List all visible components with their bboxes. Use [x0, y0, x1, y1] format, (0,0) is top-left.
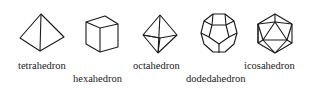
tetrahedron-label: tetrahedron: [18, 61, 66, 72]
dodecahedron-figure: [199, 13, 239, 55]
icosahedron-figure: [256, 13, 294, 55]
hexahedron-label: hexahedron: [73, 74, 122, 85]
hexahedron-figure: [84, 14, 124, 54]
octahedron-figure: [141, 13, 179, 55]
tetrahedron-figure: [18, 12, 68, 54]
icosahedron-label: icosahedron: [244, 61, 295, 72]
octahedron-label: octahedron: [133, 61, 180, 72]
dodecahedron-label: dodedahedron: [186, 74, 245, 85]
